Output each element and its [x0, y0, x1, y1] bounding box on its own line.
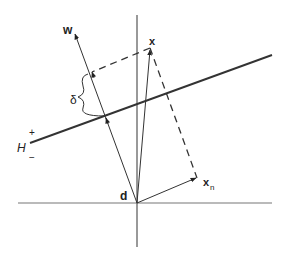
delta-brace [78, 74, 104, 116]
dashed-x-to-xn [150, 48, 197, 178]
w-projection-arrow [92, 72, 94, 78]
d-label: d [120, 189, 127, 203]
x-label: x [149, 35, 156, 47]
hyperplane-line [30, 55, 272, 143]
minus-label: − [29, 152, 35, 163]
w-label: w [62, 23, 73, 37]
x-vector [137, 50, 150, 203]
xn-subscript: n [210, 183, 214, 192]
xn-vector [137, 178, 196, 203]
dashed-x-to-w [92, 48, 150, 72]
plus-label: + [29, 127, 35, 138]
hyperplane-diagram: w x x n d H + − δ [0, 0, 287, 255]
xn-label: x [203, 176, 210, 188]
w-intersection-arrow [106, 118, 108, 124]
H-label: H [17, 141, 26, 155]
delta-label: δ [70, 93, 77, 107]
